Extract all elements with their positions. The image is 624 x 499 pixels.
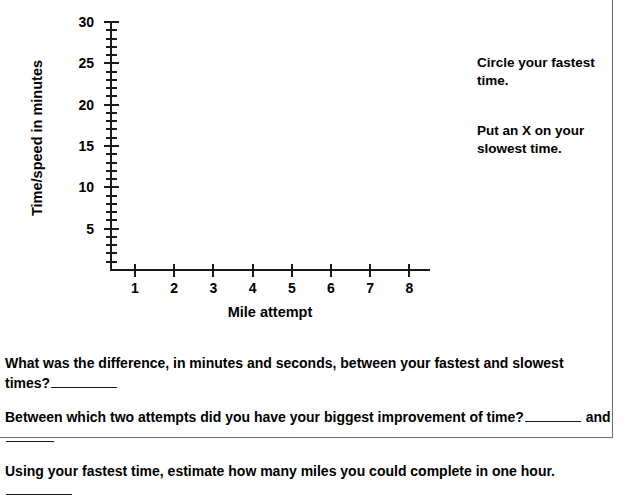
y-tick-minor xyxy=(106,54,117,56)
y-tick-major xyxy=(104,145,119,147)
x-tick-label: 4 xyxy=(241,281,265,295)
answer-blank[interactable] xyxy=(525,421,581,422)
y-tick-minor xyxy=(106,203,117,205)
question-2: Between which two attempts did you have … xyxy=(5,408,617,448)
y-tick-minor xyxy=(106,252,117,254)
y-tick-label: 15 xyxy=(58,139,94,153)
x-tick-major xyxy=(134,264,136,277)
x-tick-label: 8 xyxy=(397,281,421,295)
y-tick-minor xyxy=(106,128,117,130)
y-axis-title: Time/speed in minutes xyxy=(29,38,45,238)
y-tick-minor xyxy=(106,244,117,246)
y-tick-minor xyxy=(106,46,117,48)
y-tick-minor xyxy=(106,71,117,73)
y-tick-major xyxy=(104,104,119,106)
y-tick-minor xyxy=(106,112,117,114)
y-tick-major xyxy=(104,186,119,188)
x-tick-label: 2 xyxy=(162,281,186,295)
y-tick-minor xyxy=(106,95,117,97)
x-tick-label: 6 xyxy=(319,281,343,295)
x-tick-major xyxy=(369,264,371,277)
y-tick-minor xyxy=(106,87,117,89)
y-tick-minor xyxy=(106,236,117,238)
y-tick-minor xyxy=(106,29,117,31)
y-tick-minor xyxy=(106,153,117,155)
y-tick-minor xyxy=(106,261,117,263)
x-tick-label: 7 xyxy=(358,281,382,295)
question-text: and xyxy=(582,409,611,425)
y-tick-minor xyxy=(106,178,117,180)
x-tick-major xyxy=(291,264,293,277)
x-tick-label: 3 xyxy=(201,281,225,295)
y-tick-minor xyxy=(106,137,117,139)
question-3: Using your fastest time, estimate how ma… xyxy=(5,462,617,499)
y-tick-major xyxy=(104,62,119,64)
x-tick-major xyxy=(330,264,332,277)
y-tick-minor xyxy=(106,219,117,221)
x-tick-major xyxy=(252,264,254,277)
answer-blank[interactable] xyxy=(6,494,72,495)
y-tick-minor xyxy=(106,162,117,164)
x-tick-label: 1 xyxy=(123,281,147,295)
y-tick-minor xyxy=(106,120,117,122)
y-tick-label: 5 xyxy=(58,222,94,236)
question-text: What was the difference, in minutes and … xyxy=(5,355,564,391)
answer-blank[interactable] xyxy=(6,441,54,442)
y-tick-label: 10 xyxy=(58,180,94,194)
x-tick-label: 5 xyxy=(280,281,304,295)
y-tick-label: 25 xyxy=(58,56,94,70)
x-axis-line xyxy=(110,269,430,271)
x-tick-major xyxy=(212,264,214,277)
y-tick-minor xyxy=(106,38,117,40)
y-tick-minor xyxy=(106,195,117,197)
y-tick-major xyxy=(104,21,119,23)
x-tick-major xyxy=(408,264,410,277)
graph-plot-area: 51015202530 12345678 Time/speed in minut… xyxy=(0,0,470,330)
instruction-x-slowest: Put an X on your slowest time. xyxy=(477,122,607,158)
y-tick-label: 20 xyxy=(58,98,94,112)
question-text: Between which two attempts did you have … xyxy=(5,409,524,425)
y-tick-minor xyxy=(106,170,117,172)
answer-blank[interactable] xyxy=(51,387,117,388)
question-text: Using your fastest time, estimate how ma… xyxy=(5,463,555,479)
y-tick-minor xyxy=(106,211,117,213)
y-tick-minor xyxy=(106,79,117,81)
x-tick-major xyxy=(173,264,175,277)
question-1: What was the difference, in minutes and … xyxy=(5,354,565,394)
y-tick-label: 30 xyxy=(58,15,94,29)
instruction-circle-fastest: Circle your fastest time. xyxy=(477,54,607,90)
y-tick-major xyxy=(104,228,119,230)
x-axis-title: Mile attempt xyxy=(110,304,430,320)
questions-section: What was the difference, in minutes and … xyxy=(5,340,617,499)
